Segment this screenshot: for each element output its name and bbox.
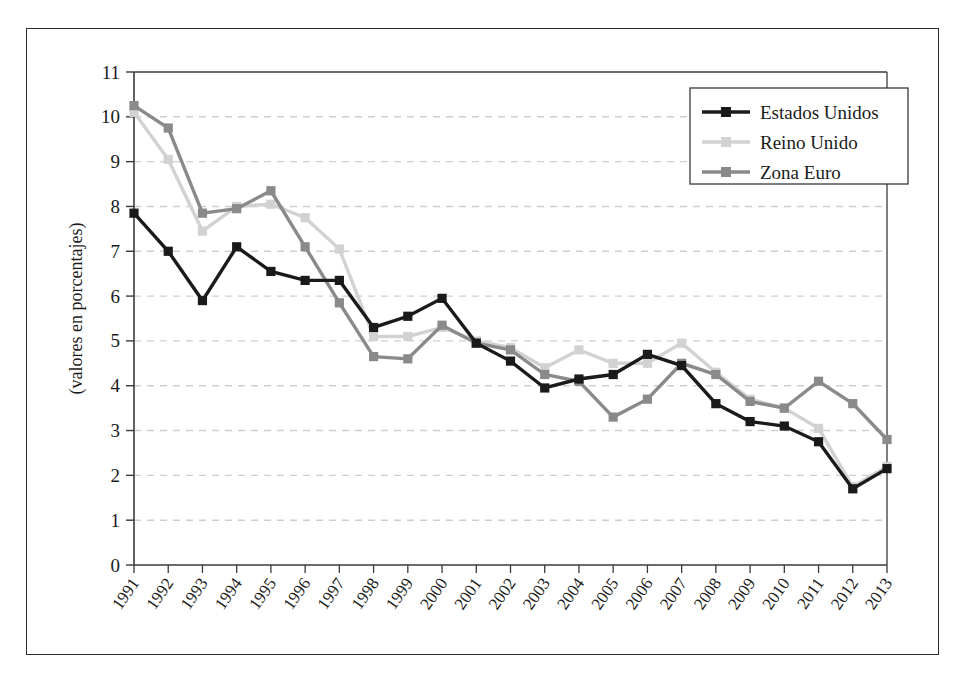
y-tick-label-1: 1 bbox=[111, 510, 121, 531]
x-tick-label-1997: 1997 bbox=[314, 574, 349, 613]
data-point-marker bbox=[403, 354, 412, 363]
y-tick-label-2: 2 bbox=[111, 465, 121, 486]
data-point-marker bbox=[198, 227, 207, 236]
y-tick-label-0: 0 bbox=[111, 555, 121, 576]
line-chart: 01234567891011(valores en porcentajes)19… bbox=[0, 0, 968, 684]
x-tick-label-2006: 2006 bbox=[622, 574, 657, 613]
x-tick-label-2012: 2012 bbox=[827, 574, 862, 613]
x-tick-label-1995: 1995 bbox=[245, 574, 280, 613]
data-point-marker bbox=[129, 209, 138, 218]
data-point-marker bbox=[609, 359, 618, 368]
data-point-marker bbox=[882, 464, 891, 473]
data-point-marker bbox=[198, 296, 207, 305]
data-point-marker bbox=[164, 247, 173, 256]
data-point-marker bbox=[780, 404, 789, 413]
data-point-marker bbox=[164, 123, 173, 132]
legend-swatch-marker bbox=[721, 107, 731, 117]
data-point-marker bbox=[745, 397, 754, 406]
data-point-marker bbox=[232, 242, 241, 251]
data-point-marker bbox=[609, 370, 618, 379]
x-tick-label-1992: 1992 bbox=[142, 574, 177, 613]
x-tick-label-2000: 2000 bbox=[416, 574, 451, 613]
data-point-marker bbox=[266, 267, 275, 276]
data-point-marker bbox=[643, 350, 652, 359]
data-point-marker bbox=[301, 276, 310, 285]
data-point-marker bbox=[848, 484, 857, 493]
y-tick-label-9: 9 bbox=[111, 151, 121, 172]
data-point-marker bbox=[369, 332, 378, 341]
data-point-marker bbox=[643, 395, 652, 404]
data-point-marker bbox=[506, 345, 515, 354]
data-point-marker bbox=[335, 298, 344, 307]
x-tick-label-1998: 1998 bbox=[348, 574, 383, 613]
data-point-marker bbox=[882, 435, 891, 444]
data-point-marker bbox=[437, 321, 446, 330]
data-point-marker bbox=[574, 374, 583, 383]
x-axis: 1991199219931994199519961997199819992000… bbox=[108, 565, 896, 613]
data-point-marker bbox=[814, 377, 823, 386]
data-point-marker bbox=[129, 101, 138, 110]
legend-label: Estados Unidos bbox=[760, 102, 879, 123]
data-point-marker bbox=[472, 339, 481, 348]
x-tick-label-2005: 2005 bbox=[587, 574, 622, 613]
data-point-marker bbox=[540, 383, 549, 392]
y-tick-label-7: 7 bbox=[111, 241, 121, 262]
data-point-marker bbox=[814, 437, 823, 446]
data-point-marker bbox=[335, 276, 344, 285]
data-point-marker bbox=[540, 370, 549, 379]
x-tick-label-1993: 1993 bbox=[177, 574, 212, 613]
data-point-marker bbox=[814, 424, 823, 433]
x-tick-label-2013: 2013 bbox=[861, 574, 896, 613]
data-point-marker bbox=[643, 359, 652, 368]
data-point-marker bbox=[506, 356, 515, 365]
x-tick-label-2011: 2011 bbox=[793, 574, 828, 612]
data-point-marker bbox=[745, 417, 754, 426]
data-point-marker bbox=[403, 332, 412, 341]
data-point-marker bbox=[609, 413, 618, 422]
legend-swatch-marker bbox=[721, 137, 731, 147]
x-tick-label-2008: 2008 bbox=[690, 574, 725, 613]
data-point-marker bbox=[301, 242, 310, 251]
y-tick-label-8: 8 bbox=[111, 196, 121, 217]
data-point-marker bbox=[164, 155, 173, 164]
y-tick-label-6: 6 bbox=[111, 286, 121, 307]
data-point-marker bbox=[335, 244, 344, 253]
data-point-marker bbox=[266, 186, 275, 195]
y-tick-label-11: 11 bbox=[102, 62, 120, 83]
data-point-marker bbox=[266, 200, 275, 209]
y-tick-label-4: 4 bbox=[111, 375, 121, 396]
legend-label: Reino Unido bbox=[760, 132, 858, 153]
x-tick-label-1996: 1996 bbox=[279, 574, 314, 613]
data-point-marker bbox=[232, 204, 241, 213]
data-point-marker bbox=[198, 209, 207, 218]
legend-swatch-marker bbox=[721, 167, 731, 177]
data-point-marker bbox=[437, 294, 446, 303]
legend: Estados UnidosReino UnidoZona Euro bbox=[690, 88, 908, 184]
data-point-marker bbox=[711, 370, 720, 379]
x-tick-label-2001: 2001 bbox=[450, 574, 485, 613]
x-tick-label-2003: 2003 bbox=[519, 574, 554, 613]
data-point-marker bbox=[677, 339, 686, 348]
y-tick-label-10: 10 bbox=[101, 106, 120, 127]
y-axis-title: (valores en porcentajes) bbox=[66, 223, 87, 395]
x-tick-label-2002: 2002 bbox=[485, 574, 520, 613]
data-point-marker bbox=[301, 213, 310, 222]
data-point-marker bbox=[403, 312, 412, 321]
x-tick-label-2010: 2010 bbox=[759, 574, 794, 613]
x-tick-label-2004: 2004 bbox=[553, 574, 588, 613]
x-tick-label-2009: 2009 bbox=[724, 574, 759, 613]
data-point-marker bbox=[677, 361, 686, 370]
x-tick-label-2007: 2007 bbox=[656, 574, 691, 613]
legend-label: Zona Euro bbox=[760, 162, 841, 183]
x-tick-label-1999: 1999 bbox=[382, 574, 417, 613]
data-point-marker bbox=[711, 399, 720, 408]
x-tick-label-1994: 1994 bbox=[211, 574, 246, 613]
data-point-marker bbox=[780, 421, 789, 430]
data-point-marker bbox=[369, 323, 378, 332]
data-point-marker bbox=[369, 352, 378, 361]
y-tick-label-3: 3 bbox=[111, 420, 121, 441]
chart-page: 01234567891011(valores en porcentajes)19… bbox=[0, 0, 968, 684]
x-tick-label-1991: 1991 bbox=[108, 574, 143, 613]
y-tick-label-5: 5 bbox=[111, 330, 121, 351]
data-point-marker bbox=[574, 345, 583, 354]
